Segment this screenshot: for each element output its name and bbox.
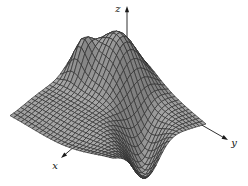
z-axis-arrow-icon [125, 6, 129, 12]
x-axis-label: x [52, 160, 58, 171]
y-axis-arrow-icon [222, 135, 228, 140]
surface-mesh-layer [10, 31, 206, 178]
y-axis-label: y [230, 137, 237, 148]
surface-plot: z x y [0, 0, 248, 186]
figure-container: z x y [0, 0, 248, 186]
z-axis-label: z [114, 3, 121, 14]
